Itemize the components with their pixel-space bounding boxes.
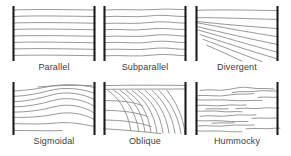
subparallel-reflectors-icon: [99, 4, 191, 64]
panel-subparallel: Subparallel: [99, 4, 191, 78]
panel-label-hummocky: Hummocky: [190, 136, 284, 146]
panel-oblique: Oblique: [99, 80, 191, 156]
seismic-reflection-configuration-figure: Parallel Subparallel: [0, 0, 291, 156]
divergent-reflectors-icon: [190, 4, 284, 64]
panel-divergent: Divergent: [190, 4, 284, 78]
panel-hummocky: Hummocky: [190, 80, 284, 156]
panel-label-sigmoidal: Sigmoidal: [8, 136, 100, 146]
panel-label-parallel: Parallel: [8, 62, 100, 72]
sigmoidal-reflectors-icon: [8, 80, 100, 138]
hummocky-reflectors-icon: [190, 80, 284, 138]
panel-label-subparallel: Subparallel: [99, 62, 191, 72]
panel-sigmoidal: Sigmoidal: [8, 80, 100, 156]
panel-label-oblique: Oblique: [99, 136, 191, 146]
parallel-reflectors-icon: [8, 4, 100, 64]
panel-parallel: Parallel: [8, 4, 100, 78]
panel-label-divergent: Divergent: [190, 62, 284, 72]
oblique-reflectors-icon: [99, 80, 191, 138]
